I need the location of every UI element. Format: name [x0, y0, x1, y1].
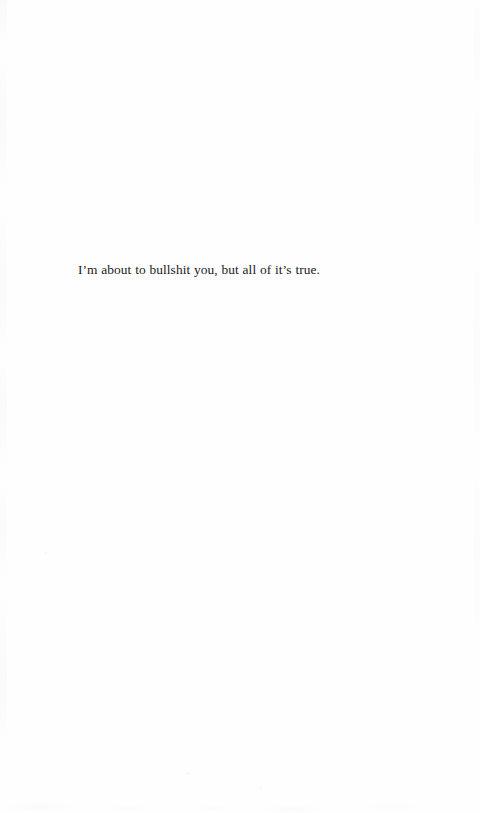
bottom-margin-scan-artifact	[0, 787, 480, 813]
paper-speck	[44, 551, 47, 554]
body-text-block: I’m about to bullshit you, but all of it…	[78, 261, 408, 278]
left-edge-scan-artifact	[0, 0, 7, 813]
epigraph-line: I’m about to bullshit you, but all of it…	[78, 261, 408, 278]
paper-speck	[186, 772, 190, 775]
paper-speck	[259, 786, 262, 790]
right-edge-scan-artifact	[474, 0, 480, 813]
scan-artifact-layer	[0, 0, 480, 813]
scanned-page: I’m about to bullshit you, but all of it…	[0, 0, 480, 813]
